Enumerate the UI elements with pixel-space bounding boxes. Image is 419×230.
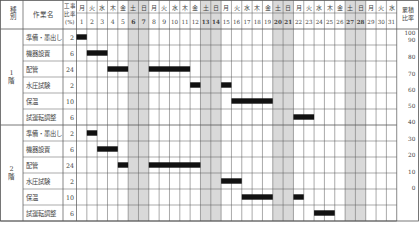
weekday-label: 水	[172, 4, 178, 11]
weekday-label: 土	[203, 4, 209, 11]
cumulative-tick: 100	[404, 30, 415, 36]
day-number: 6	[131, 18, 135, 25]
category-header: 種別	[8, 6, 16, 21]
task-bar	[221, 178, 242, 183]
cumulative-tick: 50	[408, 103, 416, 109]
task-name: 試運転調整	[26, 113, 57, 122]
task-ratio: 6	[70, 114, 74, 121]
task-ratio: 6	[70, 146, 74, 153]
day-number: 31	[388, 19, 395, 25]
weekday-label: 日	[141, 4, 147, 12]
day-number: 18	[254, 19, 262, 25]
ratio-header-line: 比率	[64, 10, 76, 18]
day-number: 23	[305, 19, 313, 25]
weekend-column	[128, 1, 138, 222]
weekday-label: 日	[358, 4, 364, 12]
task-name: 機器設置	[26, 49, 50, 58]
cumulative-tick: 70	[408, 71, 416, 77]
task-name: 準備・墨出し	[26, 33, 62, 42]
weekday-label: 土	[275, 4, 281, 11]
day-number: 17	[243, 19, 251, 25]
day-number: 21	[284, 19, 292, 25]
day-number: 3	[100, 18, 104, 25]
day-number: 10	[171, 19, 179, 25]
task-ratio: 24	[66, 162, 74, 169]
task-bar	[293, 194, 303, 199]
weekday-label: 月	[223, 4, 229, 12]
task-bar	[87, 50, 108, 55]
task-bar	[107, 66, 128, 71]
weekend-column	[211, 1, 221, 222]
task-name: 配管	[26, 161, 38, 170]
group-label: 1	[9, 69, 13, 77]
cumulative-scale: 1009080706050403020100	[404, 30, 415, 191]
task-ratio: 24	[66, 66, 74, 73]
cumulative-tick: 90	[408, 37, 416, 43]
day-number: 30	[378, 19, 386, 25]
group-label: 階	[8, 76, 15, 85]
cumulative-header: 累積比率	[402, 6, 414, 22]
weekday-label: 土	[347, 4, 353, 11]
day-number: 16	[233, 19, 241, 25]
cumulative-tick: 30	[408, 136, 416, 142]
day-number: 27	[346, 19, 354, 25]
day-number: 1	[80, 18, 84, 25]
weekday-label: 火	[161, 4, 167, 11]
gantt-chart: 種別 作業名 工事比率(%) 累積比率 月1火2水3木4金5土6日7月8火9水1…	[0, 0, 419, 230]
task-bar	[97, 146, 118, 151]
day-number: 24	[316, 19, 324, 25]
cumulative-header-line: 累積	[402, 6, 414, 14]
weekend-shading	[128, 1, 366, 222]
day-number: 8	[152, 18, 156, 25]
weekday-label: 金	[265, 4, 271, 11]
weekday-label: 火	[378, 4, 384, 11]
task-name: 機器設置	[26, 145, 50, 154]
day-number: 20	[274, 19, 282, 25]
weekend-column	[138, 1, 148, 222]
weekday-label: 火	[306, 4, 312, 11]
weekend-column	[345, 1, 355, 222]
task-name: 水圧試験	[26, 81, 51, 90]
task-ratio: 6	[70, 50, 74, 57]
task-bar	[221, 82, 231, 87]
task-name: 配管	[26, 65, 38, 74]
task-bar	[231, 98, 272, 103]
ratio-header: 工事比率(%)	[64, 2, 76, 25]
weekday-label: 水	[316, 4, 322, 11]
weekend-column	[283, 1, 293, 222]
task-ratio: 10	[66, 194, 74, 201]
task-header: 作業名	[33, 10, 54, 19]
ratio-header-line: 工事	[64, 2, 76, 9]
weekday-label: 土	[130, 4, 136, 11]
task-ratio: 2	[70, 178, 74, 185]
day-number: 12	[192, 19, 200, 25]
weekday-label: 火	[89, 4, 95, 11]
weekday-label: 金	[120, 4, 126, 11]
task-ratio: 6	[70, 210, 74, 217]
task-bar	[77, 34, 87, 39]
weekday-label: 水	[99, 4, 105, 11]
day-number: 5	[121, 18, 125, 25]
task-ratio: 2	[70, 130, 74, 137]
ratio-header-line: (%)	[65, 19, 75, 25]
weekday-label: 月	[296, 4, 302, 12]
day-number: 29	[367, 19, 375, 25]
weekday-label: 木	[327, 4, 333, 12]
day-number: 26	[336, 19, 344, 25]
weekday-label: 木	[254, 4, 260, 12]
day-number: 25	[326, 19, 334, 25]
day-number: 11	[181, 19, 188, 25]
weekday-label: 月	[151, 4, 157, 12]
group-label: 2	[9, 165, 13, 173]
task-bar	[149, 66, 190, 71]
cumulative-tick: 0	[412, 185, 416, 191]
task-name: 試運転調整	[26, 209, 57, 218]
task-bar	[149, 162, 201, 167]
day-number: 9	[162, 18, 166, 25]
task-name: 準備・墨出し	[26, 129, 62, 138]
weekday-label: 木	[182, 4, 188, 12]
weekday-label: 火	[234, 4, 240, 11]
weekend-column	[273, 1, 283, 222]
group-label: 階	[8, 172, 15, 181]
day-number: 2	[90, 18, 94, 25]
